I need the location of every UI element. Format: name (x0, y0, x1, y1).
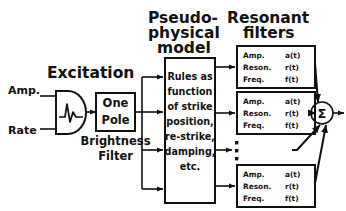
filter-1-row-3-value: f(t) (285, 75, 299, 84)
heading-resonant-filters-line2: filters (243, 24, 295, 42)
filter-n-row-1-name: Amp. (243, 170, 265, 179)
filter-2-row-1-name: Amp. (243, 97, 265, 106)
model-text-line-5: re-strike, (165, 131, 215, 142)
diagram-canvas: Excitation Pseudo- physical model Resona… (0, 0, 346, 211)
model-text-line-4: position, (166, 116, 213, 127)
vertical-ellipsis-icon (235, 141, 238, 160)
filter-1-row-1-value: a(t) (285, 51, 300, 60)
pulse-waveform-icon (59, 104, 83, 122)
input-label-rate: Rate (8, 124, 37, 137)
filter-n-row-2-value: r(t) (285, 182, 299, 191)
filter-2-row-3-name: Freq. (243, 121, 265, 130)
filter-2-row-2-name: Reson. (243, 109, 271, 118)
filter-1-row-1-name: Amp. (243, 51, 265, 60)
filter-1-row-3-name: Freq. (243, 75, 265, 84)
filter-1-row-2-name: Reson. (243, 63, 271, 72)
filter-n-row-2-name: Reson. (243, 182, 271, 191)
filter-2-row-2-value: r(t) (285, 109, 299, 118)
filter-n-row-1-value: a(t) (285, 170, 300, 179)
filter-n-row-3-name: Freq. (243, 194, 265, 203)
filter-2-row-3-value: f(t) (285, 121, 299, 130)
filter-1-row-2-value: r(t) (285, 63, 299, 72)
heading-excitation: Excitation (47, 64, 134, 82)
excitation-generator-body (56, 91, 86, 134)
brightness-filter-caption-line2: Filter (98, 149, 133, 163)
model-text-line-2: function (168, 86, 213, 97)
one-pole-label-line2: Pole (101, 113, 129, 127)
model-text-line-1: Rules as (167, 71, 213, 82)
filter-2-row-1-value: a(t) (285, 97, 300, 106)
summing-node-symbol: Σ (318, 106, 327, 121)
model-text-line-6: damping, (165, 146, 216, 157)
filter-n-row-3-value: f(t) (285, 194, 299, 203)
model-text-line-3: of strike (167, 101, 213, 112)
input-label-amp: Amp. (8, 84, 40, 97)
heading-pseudo-physical-line3: model (157, 39, 211, 57)
brightness-filter-caption-line1: Brightness (81, 134, 151, 148)
signal-flow-diagram: Excitation Pseudo- physical model Resona… (0, 0, 346, 211)
model-text-line-7: etc. (180, 161, 200, 172)
wire-filtern-to-sum (315, 125, 326, 183)
one-pole-label-line1: One (103, 96, 129, 110)
